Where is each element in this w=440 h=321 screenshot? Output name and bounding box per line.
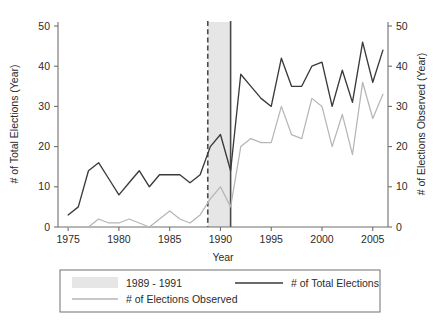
y-axis-left-tick-label: 20 — [38, 140, 50, 152]
chart-figure: 01020304050 01020304050 1975198019851990… — [0, 0, 440, 321]
y-axis-right-tick-label: 30 — [396, 100, 408, 112]
x-axis-title: Year — [212, 251, 234, 263]
line-chart: 01020304050 01020304050 1975198019851990… — [0, 0, 440, 321]
x-axis-tick-label: 1975 — [56, 233, 80, 245]
x-axis-tick-label: 2005 — [361, 233, 385, 245]
x-axis-tick-label: 1985 — [158, 233, 182, 245]
y-axis-right-title: # of Elections Observed (Year) — [415, 53, 427, 196]
y-axis-right-ticks: 01020304050 — [388, 20, 408, 233]
y-axis-left-tick-label: 50 — [38, 20, 50, 32]
transition-band-1989-1991 — [208, 22, 231, 227]
y-axis-right-tick-label: 20 — [396, 140, 408, 152]
y-axis-left-tick-label: 30 — [38, 100, 50, 112]
x-axis-ticks: 1975198019851990199520002005 — [56, 227, 384, 245]
y-axis-left-tick-label: 0 — [44, 221, 50, 233]
x-axis-tick-label: 1990 — [209, 233, 233, 245]
y-axis-right-tick-label: 50 — [396, 20, 408, 32]
legend-label-total-elections: # of Total Elections — [291, 277, 379, 289]
y-axis-right-tick-label: 40 — [396, 60, 408, 72]
legend-label-transition-band: 1989 - 1991 — [126, 277, 182, 289]
chart-legend: 1989 - 1991 # of Total Elections # of El… — [60, 270, 380, 312]
y-axis-left-title: # of Total Elections (Year) — [8, 64, 20, 183]
legend-swatch-transition-band — [72, 277, 118, 288]
y-axis-left-tick-label: 40 — [38, 60, 50, 72]
x-axis-tick-label: 1995 — [260, 233, 284, 245]
y-axis-right-tick-label: 0 — [396, 221, 402, 233]
y-axis-left-tick-label: 10 — [38, 180, 50, 192]
legend-label-elections-observed: # of Elections Observed — [126, 293, 238, 305]
y-axis-left-ticks: 01020304050 — [38, 20, 58, 233]
y-axis-right-tick-label: 10 — [396, 180, 408, 192]
x-axis-tick-label: 2000 — [310, 233, 334, 245]
x-axis-tick-label: 1980 — [107, 233, 131, 245]
